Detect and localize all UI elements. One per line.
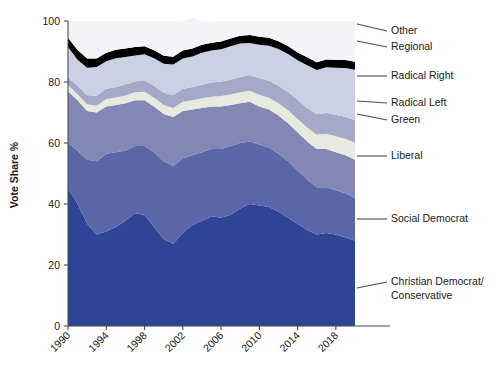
y-axis-title: Vote Share % xyxy=(8,141,20,208)
chart-figure: 020406080100 199019941998200220062010201… xyxy=(0,0,500,375)
y-tick-label: 0 xyxy=(54,320,60,332)
legend-label-regional: Regional xyxy=(391,40,432,52)
y-tick-label: 60 xyxy=(48,137,60,149)
legend-label-green: Green xyxy=(391,113,420,125)
legend-label-radical-left: Radical Left xyxy=(391,96,447,108)
y-tick-label: 100 xyxy=(42,15,60,27)
legend-label-social-democrat: Social Democrat xyxy=(391,212,468,224)
y-tick-label: 20 xyxy=(48,259,60,271)
legend-label-liberal: Liberal xyxy=(391,149,423,161)
legend-label-other: Other xyxy=(391,24,418,36)
stacked-area-chart: 020406080100 199019941998200220062010201… xyxy=(0,0,500,375)
legend-label-christian-democrat: Christian Democrat/ xyxy=(391,275,484,287)
y-tick-label: 40 xyxy=(48,198,60,210)
legend-label-christian-democrat-line2: Conservative xyxy=(391,289,452,301)
y-tick-label: 80 xyxy=(48,76,60,88)
area-bands-group xyxy=(68,18,355,326)
legend-label-radical-right: Radical Right xyxy=(391,69,454,81)
